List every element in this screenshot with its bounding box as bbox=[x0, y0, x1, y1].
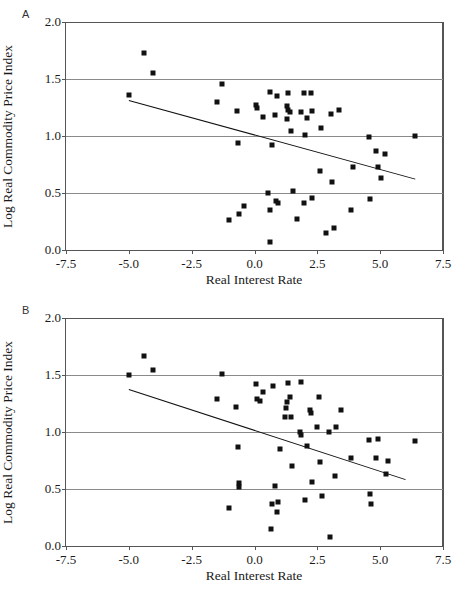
data-point bbox=[268, 240, 273, 245]
x-tick-label: -2.5 bbox=[181, 256, 202, 272]
y-tick-label: 2.0 bbox=[45, 310, 61, 326]
data-point bbox=[286, 380, 291, 385]
x-tick-label: 5.0 bbox=[372, 552, 388, 568]
data-point bbox=[141, 50, 146, 55]
x-tick-mark bbox=[129, 250, 130, 254]
x-tick-label: -5.0 bbox=[119, 256, 140, 272]
data-point bbox=[366, 135, 371, 140]
panel-a: A Log Real Commodity Price Index 0.00.51… bbox=[0, 0, 463, 291]
data-point bbox=[285, 400, 290, 405]
y-tick-label: 1.5 bbox=[45, 367, 61, 383]
data-point bbox=[302, 132, 307, 137]
data-point bbox=[126, 92, 131, 97]
data-point bbox=[287, 394, 292, 399]
data-point bbox=[219, 371, 224, 376]
y-tick-mark bbox=[62, 375, 66, 376]
x-tick-mark bbox=[443, 546, 444, 550]
x-tick-label: 2.5 bbox=[309, 552, 325, 568]
x-tick-label: -7.5 bbox=[56, 552, 77, 568]
y-tick-mark bbox=[62, 318, 66, 319]
data-point bbox=[368, 491, 373, 496]
data-point bbox=[287, 110, 292, 115]
data-point bbox=[327, 534, 332, 539]
panel-b-plot-area: 0.00.51.01.52.0-7.5-5.0-2.50.02.55.07.5 bbox=[65, 318, 443, 547]
data-point bbox=[150, 368, 155, 373]
data-point bbox=[310, 480, 315, 485]
x-tick-mark bbox=[317, 250, 318, 254]
y-tick-label: 0.5 bbox=[45, 481, 61, 497]
gridline-y bbox=[66, 136, 443, 137]
x-tick-label: -7.5 bbox=[56, 256, 77, 272]
data-point bbox=[277, 447, 282, 452]
data-point bbox=[374, 456, 379, 461]
data-point bbox=[236, 140, 241, 145]
data-point bbox=[227, 506, 232, 511]
panel-b-top-rule bbox=[66, 318, 443, 319]
x-tick-label: 7.5 bbox=[435, 552, 451, 568]
panel-a-y-axis-title: Log Real Commodity Price Index bbox=[0, 22, 16, 251]
data-point bbox=[288, 415, 293, 420]
x-tick-label: 5.0 bbox=[372, 256, 388, 272]
y-tick-label: 1.5 bbox=[45, 71, 61, 87]
data-point bbox=[275, 509, 280, 514]
data-point bbox=[309, 410, 314, 415]
data-point bbox=[298, 110, 303, 115]
data-point bbox=[276, 201, 281, 206]
panel-a-letter: A bbox=[22, 8, 29, 20]
data-point bbox=[302, 498, 307, 503]
data-point bbox=[350, 164, 355, 169]
panel-b: B Log Real Commodity Price Index 0.00.51… bbox=[0, 296, 463, 587]
data-point bbox=[272, 483, 277, 488]
x-tick-mark bbox=[255, 250, 256, 254]
x-tick-mark bbox=[192, 546, 193, 550]
data-point bbox=[369, 501, 374, 506]
data-point bbox=[282, 415, 287, 420]
data-point bbox=[236, 484, 241, 489]
y-tick-mark bbox=[62, 22, 66, 23]
data-point bbox=[214, 99, 219, 104]
gridline-y bbox=[66, 79, 443, 80]
data-point bbox=[295, 217, 300, 222]
data-point bbox=[266, 191, 271, 196]
data-point bbox=[290, 464, 295, 469]
x-tick-label: -5.0 bbox=[119, 552, 140, 568]
data-point bbox=[368, 196, 373, 201]
data-point bbox=[316, 394, 321, 399]
x-tick-mark bbox=[255, 546, 256, 550]
data-point bbox=[317, 169, 322, 174]
data-point bbox=[275, 94, 280, 99]
data-point bbox=[261, 114, 266, 119]
data-point bbox=[315, 425, 320, 430]
data-point bbox=[413, 439, 418, 444]
gridline-y bbox=[66, 432, 443, 433]
x-tick-mark bbox=[66, 546, 67, 550]
data-point bbox=[305, 115, 310, 120]
data-point bbox=[270, 143, 275, 148]
data-point bbox=[126, 373, 131, 378]
y-tick-label: 1.0 bbox=[45, 128, 61, 144]
data-point bbox=[324, 230, 329, 235]
data-point bbox=[255, 105, 260, 110]
data-point bbox=[298, 379, 303, 384]
data-point bbox=[272, 113, 277, 118]
y-tick-mark bbox=[62, 432, 66, 433]
data-point bbox=[332, 474, 337, 479]
gridline-y bbox=[66, 375, 443, 376]
x-tick-mark bbox=[380, 250, 381, 254]
x-tick-label: 0.0 bbox=[246, 552, 262, 568]
data-point bbox=[339, 408, 344, 413]
data-point bbox=[317, 459, 322, 464]
y-tick-mark bbox=[62, 489, 66, 490]
data-point bbox=[271, 384, 276, 389]
data-point bbox=[286, 90, 291, 95]
data-point bbox=[374, 148, 379, 153]
data-point bbox=[227, 218, 232, 223]
data-point bbox=[329, 112, 334, 117]
data-point bbox=[141, 353, 146, 358]
data-point bbox=[261, 390, 266, 395]
data-point bbox=[298, 433, 303, 438]
data-point bbox=[267, 89, 272, 94]
data-point bbox=[288, 129, 293, 134]
data-point bbox=[283, 406, 288, 411]
data-point bbox=[336, 107, 341, 112]
